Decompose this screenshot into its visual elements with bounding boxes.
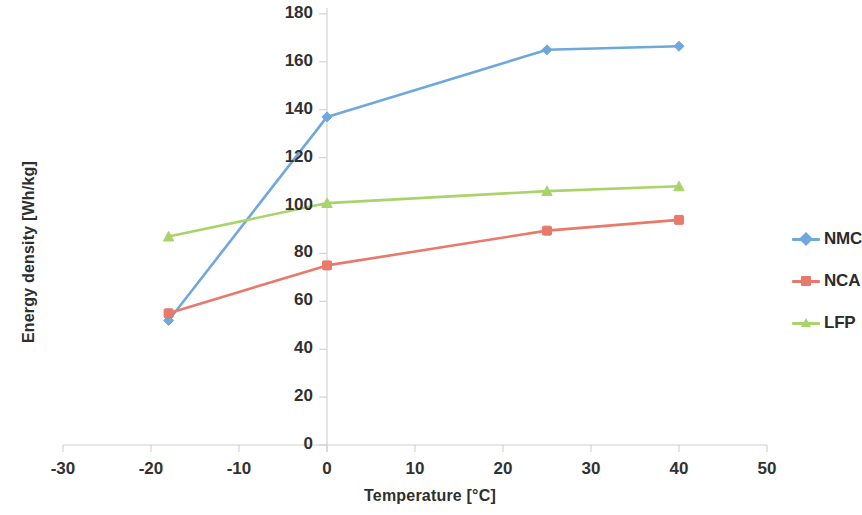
y-tick-label: 120 <box>257 147 313 167</box>
data-point-nca <box>323 261 332 270</box>
y-tick-label: 160 <box>257 51 313 71</box>
x-tick-label: -30 <box>33 459 93 479</box>
y-tick-label: 180 <box>257 3 313 23</box>
series-line-nca <box>169 220 679 313</box>
series-nmc <box>164 41 684 325</box>
legend-label: LFP <box>824 313 856 333</box>
x-tick-label: 20 <box>473 459 533 479</box>
y-tick-label: 140 <box>257 99 313 119</box>
legend-square-marker-icon <box>801 276 811 286</box>
legend-label: NCA <box>824 271 860 291</box>
x-tick-label: 10 <box>385 459 445 479</box>
legend-swatch-lfp <box>792 316 820 330</box>
x-tick-label: -20 <box>121 459 181 479</box>
x-tick-label: 0 <box>297 459 357 479</box>
legend-swatch-nca <box>792 274 820 288</box>
series-line-nmc <box>169 46 679 320</box>
data-point-nmc <box>674 41 684 51</box>
series-lfp <box>163 181 684 241</box>
legend-item-nmc[interactable]: NMC <box>792 218 861 260</box>
x-axis-title: Temperature [°C] <box>230 487 630 505</box>
legend-diamond-marker-icon <box>799 232 813 246</box>
axes-group <box>63 8 767 452</box>
y-tick-label: 60 <box>257 290 313 310</box>
y-tick-label: 100 <box>257 195 313 215</box>
data-point-nca <box>675 215 684 224</box>
x-tick-label: 50 <box>737 459 797 479</box>
series-nca <box>164 215 683 317</box>
data-point-nmc <box>542 45 552 55</box>
y-tick-label: 80 <box>257 242 313 262</box>
legend-item-nca[interactable]: NCA <box>792 260 861 302</box>
x-tick-label: 40 <box>649 459 709 479</box>
legend-triangle-marker-icon <box>801 318 811 327</box>
y-tick-label: 20 <box>257 386 313 406</box>
series-group <box>163 41 684 325</box>
legend-item-lfp[interactable]: LFP <box>792 302 861 344</box>
data-point-nca <box>543 226 552 235</box>
legend-swatch-nmc <box>792 232 820 246</box>
chart-legend: NMCNCALFP <box>792 218 861 344</box>
series-line-lfp <box>169 186 679 236</box>
x-tick-label: 30 <box>561 459 621 479</box>
data-point-nca <box>164 309 173 318</box>
legend-label: NMC <box>824 229 862 249</box>
x-tick-label: -10 <box>209 459 269 479</box>
y-tick-label: 40 <box>257 338 313 358</box>
y-tick-label: 0 <box>257 434 313 454</box>
